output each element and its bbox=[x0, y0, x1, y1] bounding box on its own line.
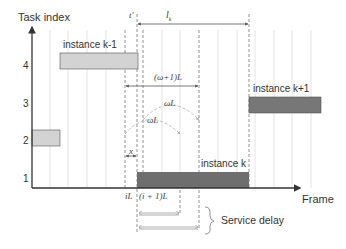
y-tick-1: 1 bbox=[23, 174, 29, 184]
service-delay-arrows bbox=[139, 213, 198, 229]
y-tick-3: 3 bbox=[23, 99, 29, 109]
instance-k-minus-1-label: instance k-1 bbox=[63, 40, 117, 50]
omega-plus-1-L-label: (ω+1)L bbox=[154, 73, 182, 82]
x-label: x bbox=[129, 147, 133, 156]
lk-label: lk bbox=[166, 10, 171, 22]
y-tick-2: 2 bbox=[23, 136, 29, 146]
i-plus-1-L-label: (i + 1)L bbox=[139, 192, 168, 201]
t-prime-label: t' bbox=[129, 11, 133, 20]
instance-k-plus-1-label: instance k+1 bbox=[253, 84, 309, 94]
service-delay-brace bbox=[205, 207, 214, 234]
diagram-canvas bbox=[0, 0, 346, 249]
iL-label: iL bbox=[125, 192, 133, 201]
service-delay-label: Service delay bbox=[221, 215, 284, 226]
instance-k-minus-1-bar bbox=[60, 53, 138, 69]
x-axis-label: Frame bbox=[302, 194, 334, 205]
task2-bar bbox=[32, 130, 60, 146]
y-axis-label: Task index bbox=[18, 12, 70, 23]
y-tick-4: 4 bbox=[23, 61, 29, 71]
instance-k-bar bbox=[137, 172, 249, 188]
instance-k-plus-1-bar bbox=[249, 97, 321, 113]
instance-k-label: instance k bbox=[201, 159, 246, 169]
omega-L-lower-label: ωL bbox=[147, 116, 158, 125]
omega-L-upper-label: ωL bbox=[164, 99, 175, 108]
